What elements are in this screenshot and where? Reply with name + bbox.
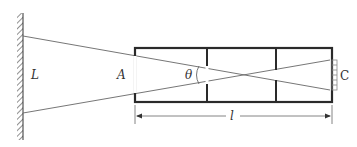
angle-arc [197, 66, 200, 84]
box-outline [135, 48, 332, 102]
box-frame [135, 48, 332, 102]
label-A: A [116, 68, 126, 82]
label-L: L [30, 68, 39, 82]
label-C: C [340, 69, 349, 83]
wall [17, 13, 23, 140]
dim-arrow-right-icon [325, 114, 331, 119]
wall-hatching [17, 13, 23, 140]
label-length: l [230, 109, 234, 123]
diagram-canvas: L A θ C l [0, 0, 357, 147]
label-theta: θ [185, 68, 193, 82]
dim-arrow-left-icon [136, 114, 142, 119]
ray-lower [23, 60, 330, 113]
ray-upper [23, 36, 330, 90]
